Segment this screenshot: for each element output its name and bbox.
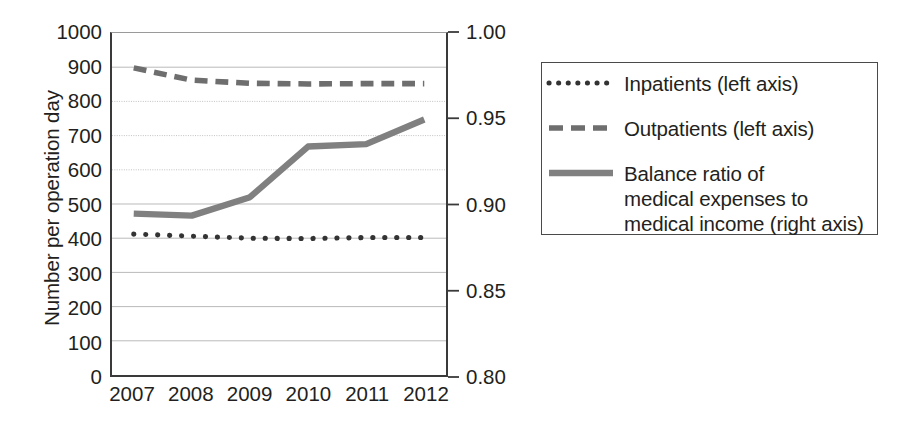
- x-tick-2011: 2011: [345, 382, 389, 406]
- y-tick-left: 500: [22, 195, 102, 216]
- legend-label-3: Balance ratio of medical expenses to med…: [624, 161, 864, 236]
- y-tick-left: 1000: [22, 22, 102, 43]
- y-tick-right: 0.90: [466, 195, 506, 216]
- y-tick-right: 1.00: [466, 22, 506, 43]
- y-tick-left: 700: [22, 126, 102, 147]
- dashed-line-sample: [549, 116, 615, 138]
- legend-item-3[interactable]: Balance ratio of medical expenses to med…: [542, 161, 877, 236]
- right-axis-tick-marks: [448, 32, 462, 377]
- legend-item-2[interactable]: Outpatients (left axis): [542, 116, 877, 141]
- plot-area: [110, 32, 448, 377]
- x-tick-2010: 2010: [286, 382, 332, 406]
- y-tick-left: 600: [22, 160, 102, 181]
- y-tick-right: 0.95: [466, 108, 506, 129]
- data-series-layer: [112, 33, 446, 375]
- legend-label-1: Inpatients (left axis): [624, 71, 798, 96]
- series-line-1: [134, 234, 425, 238]
- y-tick-right: 0.85: [466, 281, 506, 302]
- y-tick-left: 100: [22, 333, 102, 354]
- y-tick-right: 0.80: [466, 367, 506, 388]
- dotted-line-sample: [549, 71, 615, 93]
- y-tick-left: 900: [22, 57, 102, 78]
- y-tick-left: 800: [22, 91, 102, 112]
- series-line-2: [134, 68, 425, 84]
- chart-legend: Inpatients (left axis)Outpatients (left …: [541, 62, 878, 235]
- x-tick-2008: 2008: [168, 382, 214, 406]
- y-tick-left: 400: [22, 229, 102, 250]
- legend-label-2: Outpatients (left axis): [624, 116, 814, 141]
- y-tick-left: 0: [22, 367, 102, 388]
- series-line-3: [134, 120, 425, 216]
- y-tick-left: 200: [22, 298, 102, 319]
- x-tick-2012: 2012: [403, 382, 449, 406]
- solid-line-sample: [549, 161, 615, 183]
- legend-item-1[interactable]: Inpatients (left axis): [542, 71, 877, 96]
- x-tick-2007: 2007: [109, 382, 155, 406]
- x-tick-2009: 2009: [227, 382, 273, 406]
- chart-figure: Number per operation day 100090080070060…: [0, 0, 904, 428]
- y-tick-left: 300: [22, 264, 102, 285]
